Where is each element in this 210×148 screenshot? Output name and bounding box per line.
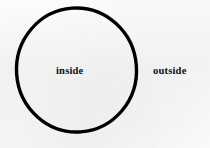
jordan-curve-figure: inside outside <box>0 0 210 148</box>
label-outside: outside <box>153 66 187 77</box>
label-inside: inside <box>56 66 83 77</box>
